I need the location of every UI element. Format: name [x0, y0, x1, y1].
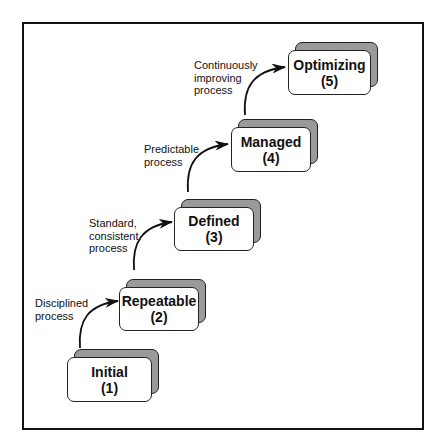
transition-label-predictable: Predictable process [144, 143, 199, 168]
stage-managed: Managed (4) [231, 127, 311, 172]
transition-label-continuously: Continuously improving process [194, 59, 258, 97]
stage-name: Defined [188, 213, 239, 229]
stage-level: (2) [150, 309, 167, 325]
stage-box: Optimizing (5) [288, 50, 371, 95]
stage-repeatable: Repeatable (2) [119, 287, 199, 331]
arrow-repeatable-to-defined [134, 222, 172, 270]
stage-name: Repeatable [122, 293, 197, 309]
stage-box: Defined (3) [174, 207, 254, 251]
stage-name: Managed [241, 134, 302, 150]
stage-defined: Defined (3) [174, 207, 254, 251]
stage-name: Optimizing [293, 57, 365, 73]
stage-box: Managed (4) [231, 127, 311, 172]
stage-level: (5) [321, 73, 338, 89]
stage-optimizing: Optimizing (5) [288, 50, 371, 95]
stage-level: (4) [262, 150, 279, 166]
stage-level: (3) [205, 229, 222, 245]
stage-level: (1) [101, 380, 118, 396]
transition-label-disciplined: Disciplined process [35, 297, 88, 322]
stage-box: Initial (1) [67, 357, 152, 402]
transition-label-standard: Standard, consistent process [89, 217, 139, 255]
stage-name: Initial [91, 364, 128, 380]
stage-initial: Initial (1) [67, 357, 152, 402]
stage-box: Repeatable (2) [119, 287, 199, 331]
